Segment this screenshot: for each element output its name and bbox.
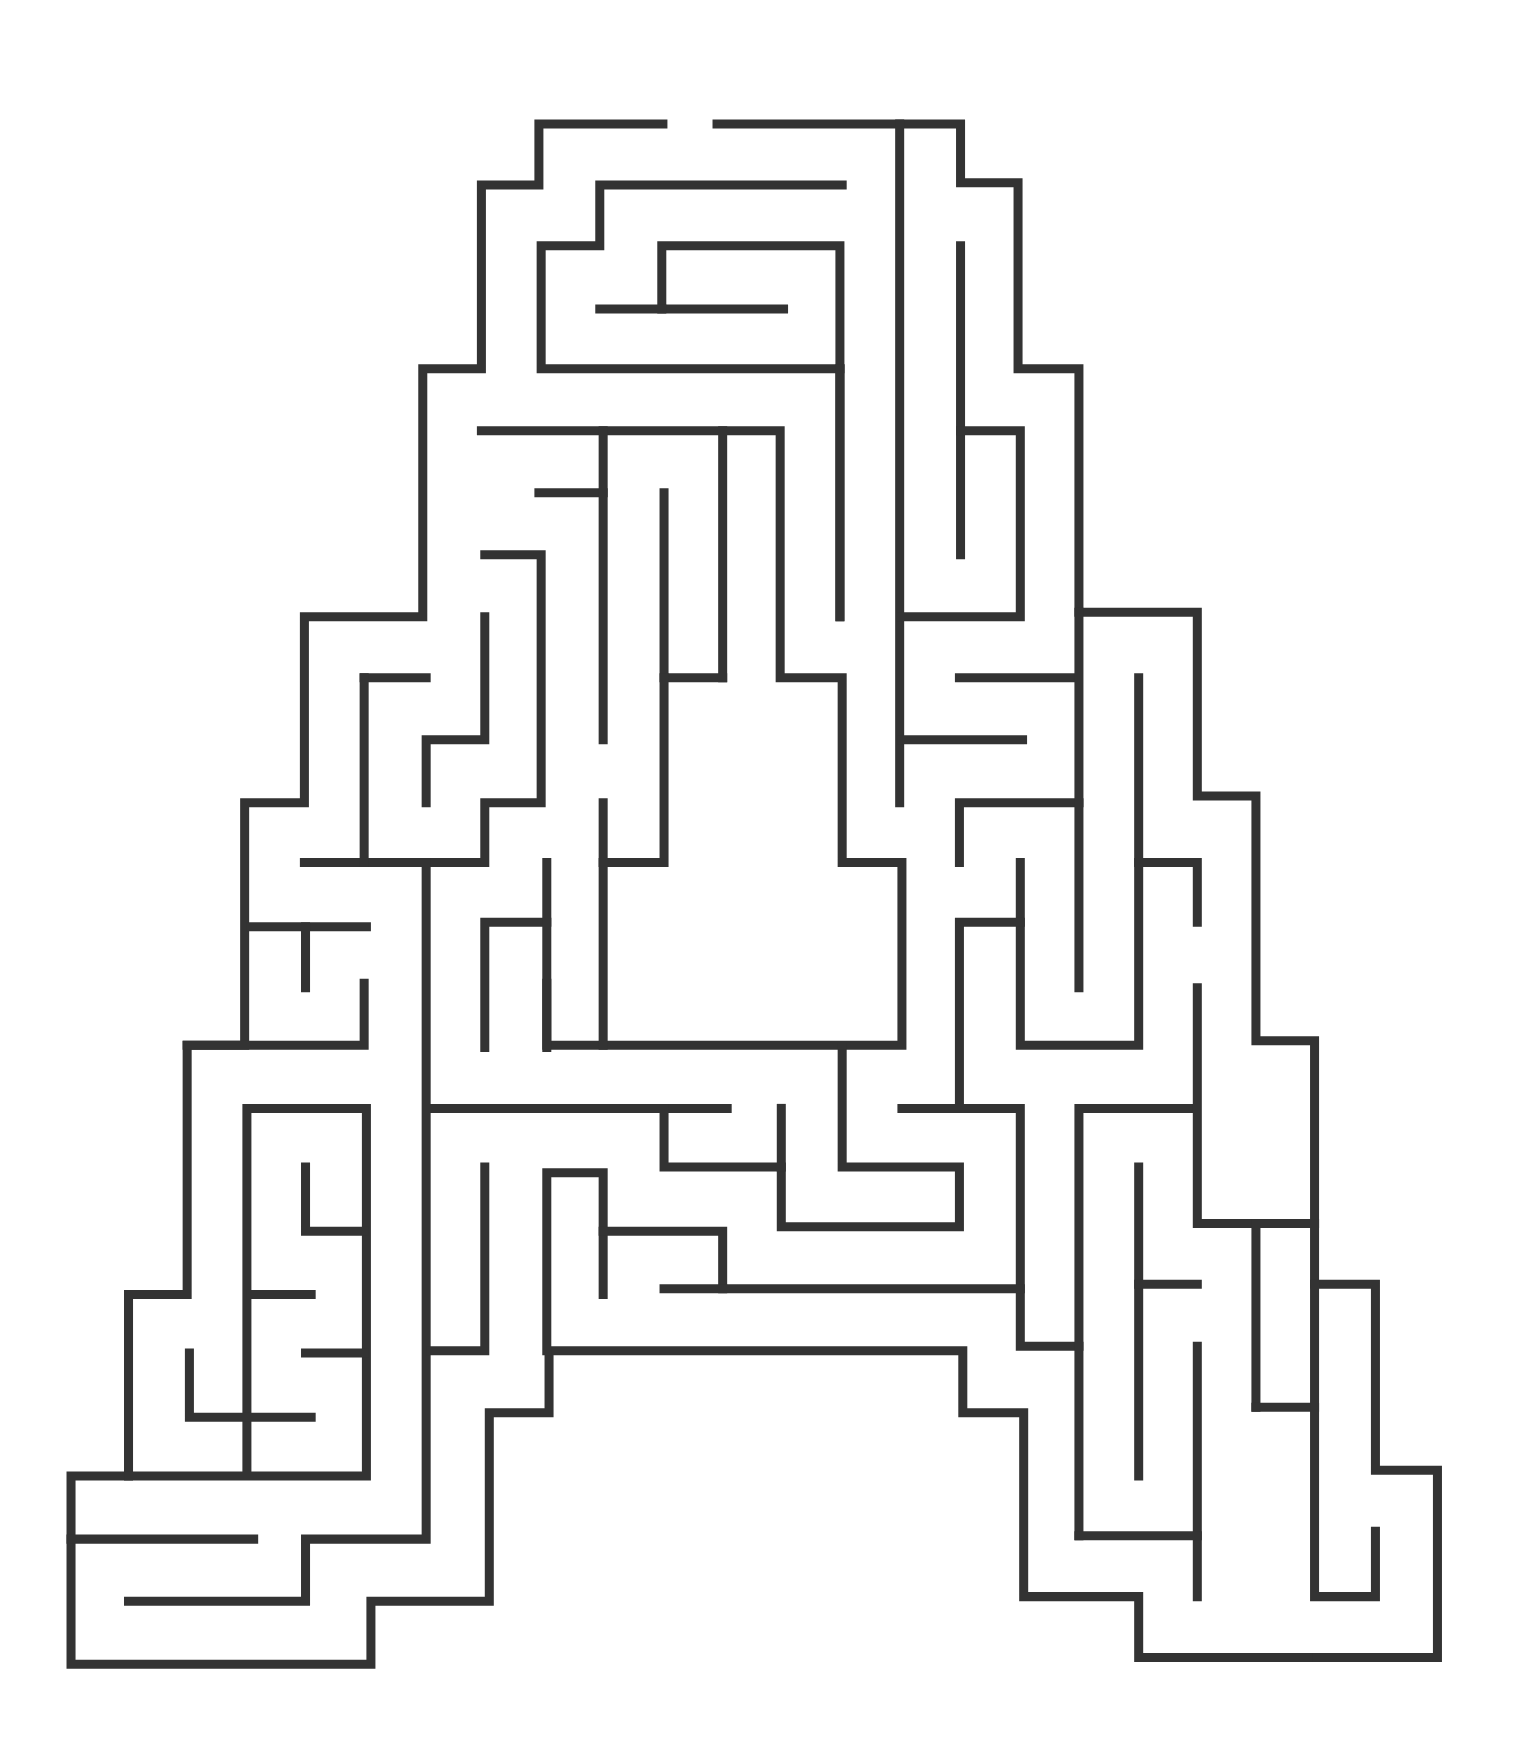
maze-wall bbox=[485, 922, 547, 1047]
maze-wall bbox=[71, 124, 1315, 1664]
maze-wall bbox=[1315, 1284, 1376, 1596]
maze-wall bbox=[547, 1173, 603, 1351]
maze-wall bbox=[959, 922, 1020, 1100]
maze-wall bbox=[431, 1167, 485, 1351]
maze-wall bbox=[664, 1048, 959, 1227]
maze-wall bbox=[306, 1167, 365, 1231]
maze-wall bbox=[129, 863, 427, 1602]
maze-wall bbox=[664, 493, 723, 678]
maze-wall bbox=[541, 185, 842, 369]
maze-walls bbox=[0, 0, 1522, 1759]
maze-wall bbox=[603, 678, 664, 863]
maze-wall bbox=[959, 803, 1079, 863]
maze-wall bbox=[1139, 863, 1198, 923]
maze-wall bbox=[1197, 988, 1256, 1407]
maze-wall bbox=[426, 617, 485, 803]
maze-wall bbox=[603, 1231, 1020, 1289]
wall-group bbox=[71, 124, 1437, 1664]
maze-wall bbox=[187, 983, 364, 1045]
